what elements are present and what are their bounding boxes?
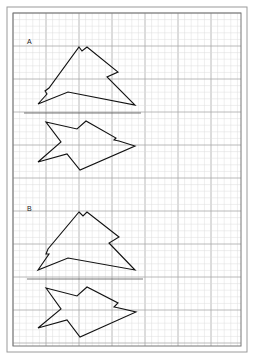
grid-lines bbox=[13, 13, 241, 346]
figure-label-b: B bbox=[27, 205, 32, 212]
figure-label-a: A bbox=[27, 38, 32, 45]
grid-sheet bbox=[0, 0, 254, 359]
grid-border bbox=[13, 13, 241, 346]
